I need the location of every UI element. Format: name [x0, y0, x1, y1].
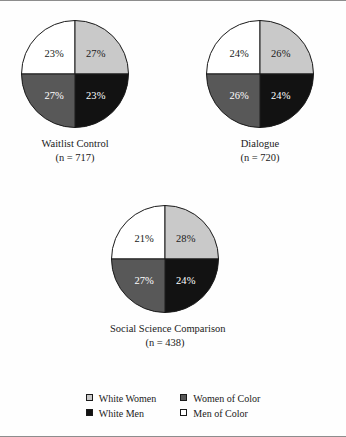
- legend-swatch-white-women-icon: [86, 394, 93, 401]
- pie-svg-2: [205, 19, 315, 129]
- pie-n-2: (n = 720): [205, 151, 315, 165]
- pie-caption-2: Dialogue (n = 720): [205, 137, 315, 165]
- pie-slice-2-2: [260, 74, 314, 128]
- legend-item-white-men: White Men: [86, 407, 157, 420]
- pie-n-3: (n = 438): [110, 336, 220, 350]
- legend-item-men-of-color: Men of Color: [180, 407, 260, 420]
- pie-slice-3-2: [165, 259, 219, 313]
- legend-item-white-women: White Women: [86, 392, 157, 405]
- pie-caption-1: Waitlist Control (n = 717): [20, 137, 130, 165]
- pie-slice-1-3: [22, 74, 76, 128]
- pie-chart-social-science-comparison: 21% 28% 24% 27% Social Science Compariso…: [110, 204, 220, 350]
- pie-slice-1-2: [75, 74, 129, 128]
- pie-caption-3: Social Science Comparison (n = 438): [110, 322, 220, 350]
- legend-label-white-women: White Women: [99, 392, 157, 405]
- pie-canvas-3: 21% 28% 24% 27%: [110, 204, 220, 314]
- pie-slice-3-3: [112, 259, 166, 313]
- pie-title-1: Waitlist Control: [41, 138, 108, 149]
- legend-label-women-of-color: Women of Color: [193, 392, 260, 405]
- legend-swatch-white-men-icon: [86, 409, 93, 416]
- legend-swatch-men-of-color-icon: [180, 409, 187, 416]
- pie-slice-2-3: [207, 74, 261, 128]
- chart-legend: White Women Women of Color White Men Men…: [0, 392, 346, 420]
- pie-canvas-2: 24% 26% 24% 26%: [205, 19, 315, 129]
- pie-svg-1: [20, 19, 130, 129]
- legend-label-white-men: White Men: [99, 407, 144, 420]
- pie-title-3: Social Science Comparison: [110, 323, 225, 334]
- figure-panel: 23% 27% 23% 27% Waitlist Control (n = 71…: [0, 0, 346, 437]
- pie-chart-waitlist-control: 23% 27% 23% 27% Waitlist Control (n = 71…: [20, 19, 130, 165]
- pie-title-2: Dialogue: [241, 138, 280, 149]
- pie-slice-3-1: [165, 206, 219, 260]
- pie-slice-3-0: [112, 206, 166, 260]
- pie-slice-1-1: [75, 21, 129, 75]
- pie-svg-3: [110, 204, 220, 314]
- pie-slice-2-1: [260, 21, 314, 75]
- pie-n-1: (n = 717): [20, 151, 130, 165]
- pie-slice-2-0: [207, 21, 261, 75]
- pie-chart-dialogue: 24% 26% 24% 26% Dialogue (n = 720): [205, 19, 315, 165]
- legend-label-men-of-color: Men of Color: [193, 407, 247, 420]
- legend-item-women-of-color: Women of Color: [180, 392, 260, 405]
- pie-canvas-1: 23% 27% 23% 27%: [20, 19, 130, 129]
- pie-slice-1-0: [22, 21, 76, 75]
- legend-swatch-women-of-color-icon: [180, 394, 187, 401]
